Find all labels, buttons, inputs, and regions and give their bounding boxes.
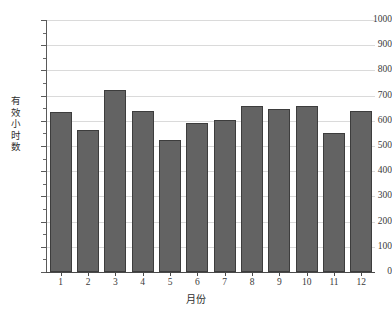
- x-tick-mark: [225, 272, 226, 276]
- gridline: [47, 70, 375, 71]
- x-tick-label: 1: [47, 277, 75, 288]
- bar: [104, 90, 126, 272]
- x-tick-label: 4: [129, 277, 157, 288]
- x-tick-mark: [334, 272, 335, 276]
- x-tick-label: 7: [211, 277, 239, 288]
- y-axis-title: 有效小时数: [9, 96, 23, 154]
- x-tick-mark: [115, 272, 116, 276]
- bar: [214, 120, 236, 272]
- bar: [268, 109, 290, 272]
- bar: [50, 112, 72, 272]
- x-tick-label: 8: [238, 277, 266, 288]
- x-tick-mark: [143, 272, 144, 276]
- x-axis-line: [46, 272, 375, 273]
- bar: [323, 133, 345, 272]
- gridline: [47, 20, 375, 21]
- plot-area: [47, 20, 375, 272]
- x-tick-label: 9: [265, 277, 293, 288]
- x-tick-mark: [361, 272, 362, 276]
- bar: [186, 123, 208, 272]
- gridline: [47, 45, 375, 46]
- bar-chart: 有效小时数 01002003004005006007008009001000 1…: [0, 0, 392, 315]
- bar: [241, 106, 263, 272]
- gridline: [47, 121, 375, 122]
- x-tick-mark: [88, 272, 89, 276]
- x-tick-mark: [252, 272, 253, 276]
- bar: [77, 130, 99, 272]
- x-tick-mark: [170, 272, 171, 276]
- x-tick-label: 12: [347, 277, 375, 288]
- x-tick-label: 6: [183, 277, 211, 288]
- x-axis-title: 月份: [0, 291, 392, 306]
- x-tick-label: 11: [320, 277, 348, 288]
- bar: [132, 111, 154, 272]
- bar: [296, 106, 318, 272]
- x-tick-label: 5: [156, 277, 184, 288]
- x-tick-mark: [61, 272, 62, 276]
- x-tick-mark: [197, 272, 198, 276]
- x-tick-label: 2: [74, 277, 102, 288]
- x-tick-mark: [279, 272, 280, 276]
- bar: [350, 111, 372, 272]
- gridline: [47, 96, 375, 97]
- x-tick-mark: [307, 272, 308, 276]
- x-tick-label: 3: [101, 277, 129, 288]
- bar: [159, 140, 181, 272]
- x-tick-label: 10: [293, 277, 321, 288]
